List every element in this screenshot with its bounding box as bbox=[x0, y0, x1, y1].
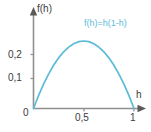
y-axis-tick-label-0-2: 0,2 bbox=[8, 49, 22, 60]
function-curve bbox=[34, 41, 135, 109]
x-axis-title: h bbox=[136, 89, 142, 100]
x-axis-tick-label-0-5: 0,5 bbox=[75, 112, 89, 123]
curve-formula-annotation: f(h)=h(1-h) bbox=[84, 18, 127, 28]
x-axis-tick-label-1: 1 bbox=[130, 112, 136, 123]
x-axis-arrowhead bbox=[138, 105, 147, 112]
y-axis-title: f(h) bbox=[37, 3, 52, 14]
origin-tick-label: 0 bbox=[23, 107, 29, 118]
y-axis-tick-label-0-1: 0,1 bbox=[8, 72, 22, 83]
function-plot-figure: 0,2 0,1 0 0,5 1 f(h) h f(h)=h(1-h) bbox=[0, 0, 151, 132]
